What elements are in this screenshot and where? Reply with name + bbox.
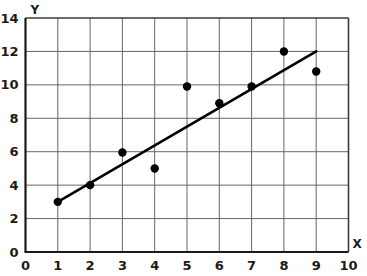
x-tick-label: 2	[86, 258, 95, 273]
data-point	[183, 82, 191, 90]
y-tick-label: 2	[9, 211, 18, 226]
y-tick-label: 10	[0, 77, 18, 92]
x-tick-label: 0	[21, 258, 30, 273]
x-tick-label: 3	[118, 258, 127, 273]
y-tick-label: 0	[9, 245, 18, 260]
y-tick-label: 6	[9, 144, 18, 159]
scatter-plot-canvas: 01234567891002468101214YX	[0, 0, 367, 276]
data-point	[312, 67, 320, 75]
chart-figure: 01234567891002468101214YX	[0, 0, 367, 276]
x-tick-label: 1	[53, 258, 62, 273]
data-point	[151, 164, 159, 172]
x-tick-label: 5	[182, 258, 191, 273]
data-point	[280, 47, 288, 55]
x-tick-label: 7	[247, 258, 256, 273]
axis-labels: 01234567891002468101214YX	[0, 3, 362, 273]
y-tick-label: 14	[0, 11, 18, 26]
x-tick-label: 6	[215, 258, 224, 273]
data-point	[54, 198, 62, 206]
x-axis-title: X	[353, 237, 363, 251]
y-tick-label: 8	[9, 111, 18, 126]
y-tick-label: 12	[0, 44, 18, 59]
data-point	[86, 181, 94, 189]
x-tick-label: 4	[150, 258, 159, 273]
x-tick-label: 10	[339, 258, 357, 273]
x-tick-label: 8	[279, 258, 288, 273]
data-point	[215, 99, 223, 107]
data-point	[247, 82, 255, 90]
y-axis-title: Y	[30, 3, 40, 17]
x-tick-label: 9	[312, 258, 321, 273]
y-tick-label: 4	[9, 178, 18, 193]
grid-lines	[26, 18, 349, 252]
data-point	[118, 148, 126, 156]
